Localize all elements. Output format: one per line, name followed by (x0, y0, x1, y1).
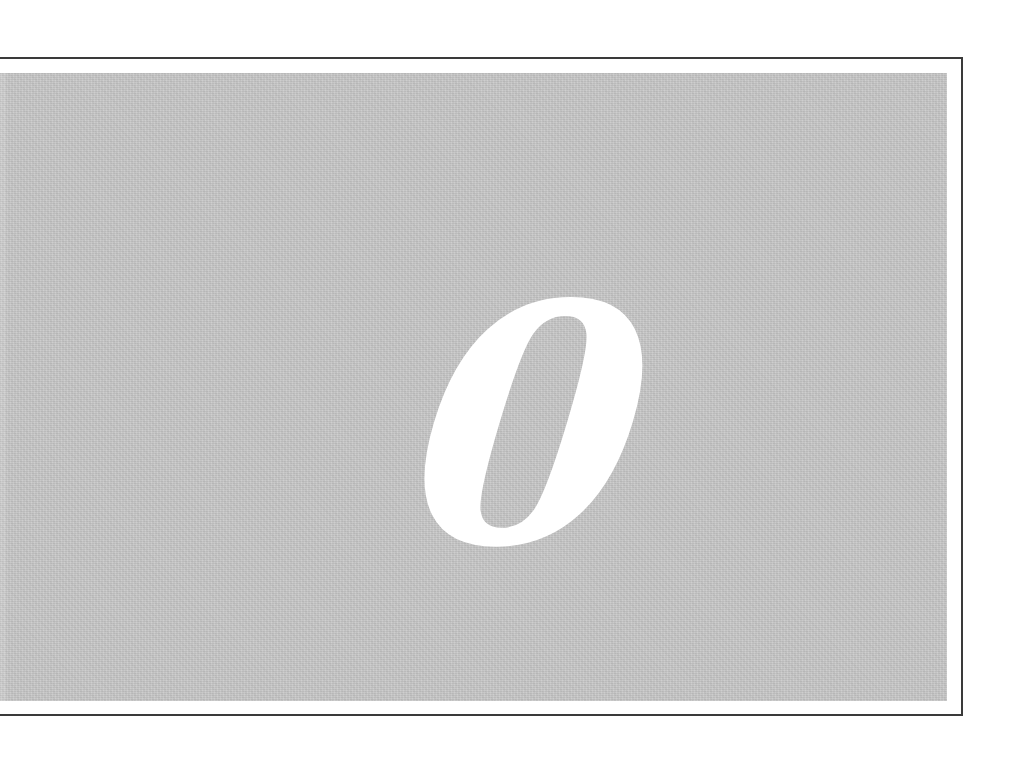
chapter-frame: 0 (0, 57, 963, 716)
chapter-number: 0 (404, 291, 662, 561)
gray-textured-panel: 0 (0, 73, 947, 701)
panel-left-edge (0, 73, 6, 701)
